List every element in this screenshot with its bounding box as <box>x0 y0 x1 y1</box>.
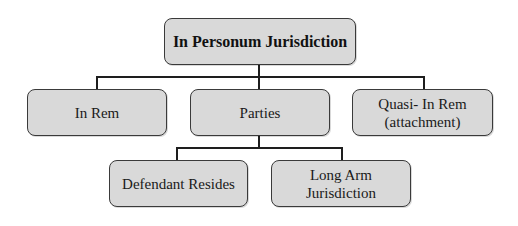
node-in-rem: In Rem <box>27 89 167 136</box>
node-label-line1: Long Arm <box>310 166 372 184</box>
node-in-personum-jurisdiction: In Personum Jurisdiction <box>164 18 356 65</box>
connector-to-quasi-in-rem <box>423 76 425 90</box>
node-label-line1: Quasi- In Rem <box>378 95 466 113</box>
connector-to-parties <box>258 76 260 90</box>
node-label-line2: Jurisdiction <box>306 184 376 202</box>
connector-to-defendant-resides <box>176 147 178 161</box>
connector-to-long-arm <box>341 147 343 161</box>
node-label: Parties <box>240 104 281 122</box>
connector-to-in-rem <box>96 76 98 90</box>
node-label: In Rem <box>75 104 120 122</box>
node-long-arm-jurisdiction: Long Arm Jurisdiction <box>271 160 411 207</box>
connector-level2-bar <box>176 147 343 149</box>
node-parties: Parties <box>190 89 330 136</box>
node-quasi-in-rem: Quasi- In Rem (attachment) <box>352 89 493 136</box>
node-label: In Personum Jurisdiction <box>173 33 347 51</box>
node-label-line2: (attachment) <box>385 113 461 131</box>
connector-level1-bar <box>96 76 425 78</box>
node-defendant-resides: Defendant Resides <box>109 160 248 207</box>
node-label: Defendant Resides <box>122 175 235 193</box>
